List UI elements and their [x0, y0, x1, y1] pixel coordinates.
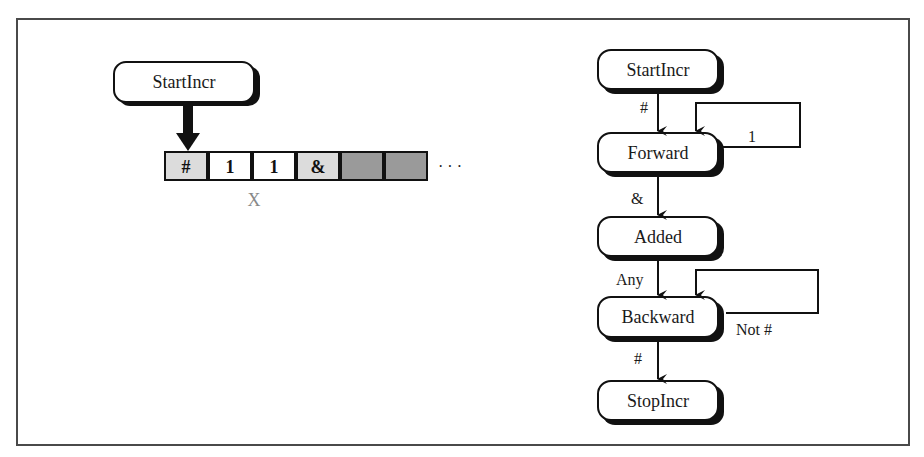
tape-cell-label: 1: [226, 157, 235, 177]
edge-label: #: [640, 99, 648, 116]
edge-label: &: [631, 190, 644, 207]
state-node-forward: Forward: [598, 133, 724, 177]
head-node-label: StartIncr: [153, 72, 216, 92]
state-label: StartIncr: [627, 60, 690, 80]
state-node-stopincr: StopIncr: [598, 381, 724, 425]
tape-position-label: X: [248, 190, 261, 210]
edge-label: Any: [616, 271, 644, 289]
tape-ellipsis: · · ·: [438, 158, 462, 175]
state-label: Forward: [628, 143, 689, 163]
tape-cell: [342, 153, 382, 179]
state-node-added: Added: [598, 217, 724, 261]
head-pointer-arrow: [176, 103, 200, 151]
diagram-canvas: StartIncr # 1 1 & · · · X StartIncr Forw…: [0, 0, 924, 457]
state-label: StopIncr: [627, 391, 689, 411]
edge-label: Not #: [736, 321, 772, 338]
edge-label: #: [634, 350, 642, 367]
state-node-startincr: StartIncr: [598, 50, 724, 94]
tape-cell-label: 1: [270, 157, 279, 177]
head-node-startincr: StartIncr: [114, 62, 260, 106]
tape-cell-label: #: [182, 157, 191, 177]
tape-cell: [386, 153, 426, 179]
edge-label: 1: [748, 128, 756, 145]
state-label: Added: [634, 227, 682, 247]
tape: # 1 1 & · · · X: [164, 151, 462, 210]
state-node-backward: Backward: [598, 297, 724, 342]
tape-cell-label: &: [311, 157, 326, 177]
state-label: Backward: [622, 307, 695, 327]
